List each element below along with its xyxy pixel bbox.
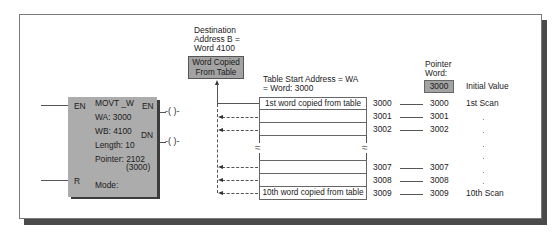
dn-coil-icon: -( )- bbox=[165, 136, 180, 146]
length-param: Length: 10 bbox=[95, 140, 135, 150]
ellipsis-dot bbox=[483, 119, 484, 120]
pointer-value-3007: 3007 bbox=[430, 163, 449, 173]
dashed-arrow-3001 bbox=[222, 117, 258, 118]
table-row-3009: 10th word copied from table bbox=[259, 186, 367, 200]
ellipsis-dot bbox=[483, 132, 484, 133]
wa-param: WA: 3000 bbox=[95, 112, 131, 122]
destination-label-line3: Word 4100 bbox=[194, 44, 235, 54]
connector-3009 bbox=[400, 194, 423, 195]
table-row-3001 bbox=[259, 109, 367, 123]
table-row-3008 bbox=[259, 173, 367, 187]
pointer-value-3000: 3000 bbox=[430, 99, 449, 109]
word-copied-box: Word Copied From Table bbox=[188, 56, 244, 79]
connector-3002 bbox=[400, 130, 423, 131]
ellipsis-dot bbox=[483, 146, 484, 147]
connector-3008 bbox=[400, 181, 423, 182]
mode-param: Mode: bbox=[95, 180, 118, 190]
arrow-left-icon bbox=[218, 191, 223, 195]
pointer-word-label-line2: Word: bbox=[425, 69, 447, 79]
dashed-arrow-3002 bbox=[222, 130, 258, 131]
pointer-value-3009: 3009 bbox=[430, 189, 449, 199]
pointer-value-3008: 3008 bbox=[430, 176, 449, 186]
initial-value-label: Initial Value bbox=[466, 82, 509, 92]
tenth-scan-label: 10th Scan bbox=[466, 189, 504, 199]
arrow-left-icon bbox=[218, 115, 223, 119]
address-3001: 3001 bbox=[373, 112, 392, 122]
connector-3000 bbox=[400, 104, 423, 105]
copy-path-solid-vertical bbox=[217, 84, 218, 104]
break-symbol-left-icon: ≈ bbox=[255, 143, 261, 153]
address-3007: 3007 bbox=[373, 163, 392, 173]
dashed-arrow-3009 bbox=[222, 193, 258, 194]
ellipsis-dot bbox=[483, 158, 484, 159]
input-en-label: EN bbox=[74, 101, 86, 111]
wb-param: WB: 4100 bbox=[95, 126, 132, 136]
dashed-arrow-3008 bbox=[222, 180, 258, 181]
break-symbol-right-icon: ≈ bbox=[362, 143, 368, 153]
pointer-current-value: (3000) bbox=[126, 162, 150, 172]
address-3009: 3009 bbox=[373, 189, 392, 199]
output-dn-label: DN bbox=[141, 130, 153, 140]
movt-w-function-block: EN MOVT _W EN WA: 3000 WB: 4100 DN Lengt… bbox=[68, 97, 157, 197]
en-input-wire bbox=[41, 105, 68, 106]
input-r-label: R bbox=[74, 176, 80, 186]
address-3008: 3008 bbox=[373, 176, 392, 186]
arrow-left-icon bbox=[218, 178, 223, 182]
ellipsis-dot bbox=[483, 183, 484, 184]
word-copied-line2: From Table bbox=[189, 68, 243, 78]
address-3000: 3000 bbox=[373, 99, 392, 109]
table-start-label-line2: = Word: 3000 bbox=[263, 84, 313, 94]
dashed-arrow-3007 bbox=[222, 167, 258, 168]
pointer-value-3002: 3002 bbox=[430, 125, 449, 135]
table-row-3007 bbox=[259, 160, 367, 174]
table-row-3002 bbox=[259, 122, 367, 136]
output-en-label: EN bbox=[142, 101, 154, 111]
copy-path-first-row bbox=[217, 103, 259, 104]
pointer-initial-box: 3000 bbox=[424, 80, 454, 93]
word-copied-line1: Word Copied bbox=[189, 58, 243, 68]
block-title: MOVT _W bbox=[95, 98, 134, 108]
arrow-left-icon bbox=[218, 165, 223, 169]
first-scan-label: 1st Scan bbox=[466, 99, 499, 109]
pointer-value-3001: 3001 bbox=[430, 112, 449, 122]
arrow-left-icon bbox=[218, 128, 223, 132]
ellipsis-dot bbox=[483, 172, 484, 173]
r-input-wire bbox=[41, 180, 68, 181]
address-3002: 3002 bbox=[373, 125, 392, 135]
en-coil-icon: -( )- bbox=[165, 106, 180, 116]
connector-3001 bbox=[400, 117, 423, 118]
frame-shadow-bottom bbox=[24, 218, 547, 225]
connector-3007 bbox=[400, 168, 423, 169]
